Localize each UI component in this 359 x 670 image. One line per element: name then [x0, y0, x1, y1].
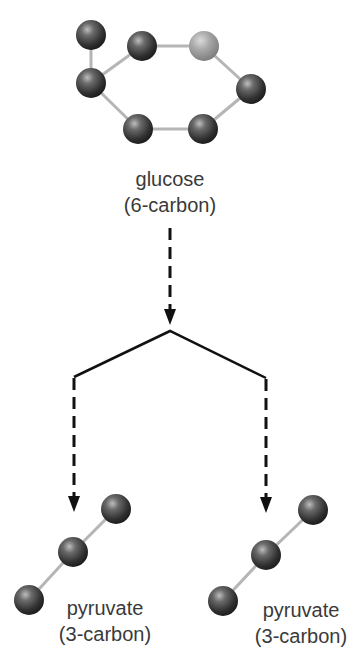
glucose-name: glucose	[110, 166, 230, 192]
pyruvate-left-name: pyruvate	[48, 595, 162, 621]
glucose-carbon-count: (6-carbon)	[110, 192, 230, 218]
carbon-atom-icon	[101, 494, 131, 524]
carbon-atom-highlighted-icon	[189, 31, 219, 61]
glucose-label: glucose (6-carbon)	[110, 166, 230, 218]
glycolysis-diagram	[0, 0, 359, 670]
carbon-atom-icon	[208, 586, 238, 616]
carbon-atom-icon	[188, 114, 218, 144]
carbon-atom-icon	[14, 585, 44, 615]
split-branch-line	[74, 331, 266, 378]
pyruvate-right-label: pyruvate (3-carbon)	[244, 597, 358, 649]
carbon-atom-icon	[251, 540, 281, 570]
glucose-bonds	[91, 35, 251, 129]
carbon-atom-icon	[123, 114, 153, 144]
carbon-atom-icon	[236, 74, 266, 104]
carbon-atom-icon	[58, 537, 88, 567]
pyruvate-right-name: pyruvate	[244, 597, 358, 623]
pyruvate-left-label: pyruvate (3-carbon)	[48, 595, 162, 647]
carbon-atom-icon	[298, 495, 328, 525]
pyruvate-right-carbon-count: (3-carbon)	[244, 623, 358, 649]
pyruvate-left-carbon-count: (3-carbon)	[48, 621, 162, 647]
carbon-atom-icon	[76, 68, 106, 98]
arrowhead-top-icon	[164, 309, 176, 325]
carbon-atom-icon	[127, 31, 157, 61]
arrowhead-left-icon	[68, 496, 80, 512]
arrowhead-right-icon	[260, 497, 272, 513]
glucose-molecule	[76, 20, 266, 144]
carbon-atom-icon	[76, 20, 106, 50]
